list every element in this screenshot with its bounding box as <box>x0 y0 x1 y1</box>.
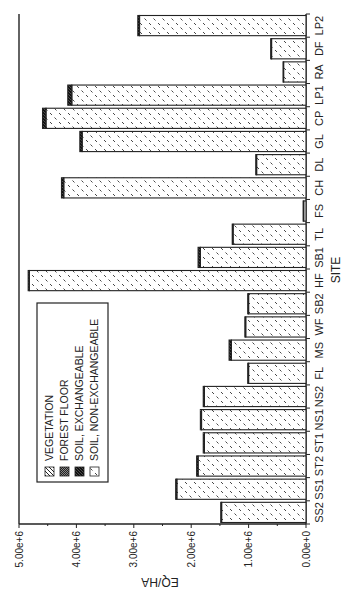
value-axis-ticks: 0.00e+01.00e+62.00e+63.00e+64.00e+65.00e… <box>14 524 312 567</box>
bar-segment-soil-exchangeable <box>271 39 272 59</box>
legend-label-soil-exchangeable: SOIL, EXCHANGEABLE <box>73 345 85 461</box>
bar-ns1 <box>200 410 306 430</box>
bar-segment-soil-non-exchangeable <box>284 62 306 82</box>
bar-segment-soil-non-exchangeable <box>140 16 306 36</box>
value-tick-label: 5.00e+6 <box>14 531 25 568</box>
bar-segment-soil-exchangeable <box>28 271 29 291</box>
legend-label-vegetation: VEGETATION <box>43 395 55 461</box>
bar-sb2 <box>248 294 306 314</box>
bar-segment-soil-exchangeable <box>198 247 200 267</box>
bar-segment-soil-exchangeable <box>232 224 233 244</box>
bar-segment-soil-exchangeable <box>248 294 249 314</box>
bar-ra <box>283 62 306 82</box>
legend-swatch-vegetation <box>45 467 54 476</box>
bar-segment-soil-exchangeable <box>68 85 72 105</box>
value-axis-title: EQ/HA <box>141 575 178 589</box>
bar-ms <box>229 340 306 360</box>
bar-gl <box>80 131 306 151</box>
category-label: SS1 <box>313 479 325 500</box>
bar-segment-soil-exchangeable <box>283 62 284 82</box>
bar-segment-soil-non-exchangeable <box>202 410 306 430</box>
category-label: GL <box>313 134 325 149</box>
value-tick-label: 4.00e+6 <box>71 531 82 568</box>
category-label: WF <box>313 318 325 335</box>
bar-segment-soil-non-exchangeable <box>272 39 306 59</box>
category-label: SS2 <box>313 502 325 523</box>
category-label: CP <box>313 111 325 126</box>
bar-segment-soil-non-exchangeable <box>204 433 306 453</box>
category-label: HF <box>313 273 325 288</box>
bar-ch <box>61 178 306 198</box>
bar-segment-soil-exchangeable <box>221 502 222 522</box>
bar-segment-soil-non-exchangeable <box>233 224 306 244</box>
category-label: MS <box>313 342 325 359</box>
category-label: FS <box>313 204 325 218</box>
bar-segment-soil-non-exchangeable <box>231 340 306 360</box>
legend-label-soil-non-exchangeable: SOIL, NON-EXCHANGEABLE <box>88 319 100 461</box>
chart-stage: 0.00e+01.00e+62.00e+63.00e+64.00e+65.00e… <box>0 0 354 602</box>
bar-lp2 <box>138 16 306 36</box>
bar-segment-soil-exchangeable <box>43 108 46 128</box>
bar-ss2 <box>221 502 306 522</box>
category-label: TL <box>313 228 325 241</box>
legend-item-soil-non-exchangeable: SOIL, NON-EXCHANGEABLE <box>88 319 100 476</box>
bar-st1 <box>203 433 306 453</box>
bar-segment-soil-non-exchangeable <box>246 317 306 337</box>
bar-segment-soil-non-exchangeable <box>82 131 306 151</box>
bar-segment-soil-exchangeable <box>197 456 198 476</box>
bar-segment-soil-non-exchangeable <box>29 271 306 291</box>
category-label: ST1 <box>313 433 325 453</box>
bar-ss1 <box>176 479 306 499</box>
bar-hf <box>28 271 306 291</box>
legend-item-soil-exchangeable: SOIL, EXCHANGEABLE <box>73 345 85 476</box>
bar-segment-soil-exchangeable <box>200 410 201 430</box>
bar-segment-soil-exchangeable <box>176 479 177 499</box>
category-label: SB1 <box>313 247 325 268</box>
category-label: NS2 <box>313 386 325 407</box>
category-axis-title: SITE <box>329 257 343 284</box>
bar-lp1 <box>68 85 306 105</box>
bar-sb1 <box>198 247 306 267</box>
bar-segment-soil-exchangeable <box>203 433 204 453</box>
bar-segment-soil-exchangeable <box>61 178 63 198</box>
bar-segment-soil-exchangeable <box>303 201 304 221</box>
value-tick-label: 0.00e+0 <box>301 531 312 568</box>
value-tick-label: 3.00e+6 <box>128 531 139 568</box>
bar-segment-soil-exchangeable <box>229 340 231 360</box>
bar-cp <box>43 108 306 128</box>
category-label: NS1 <box>313 409 325 430</box>
bar-fl <box>248 363 306 383</box>
bar-chart: 0.00e+01.00e+62.00e+63.00e+64.00e+65.00e… <box>0 0 354 602</box>
legend-swatch-forest-floor <box>60 467 69 476</box>
legend-swatch-soil-exchangeable <box>75 467 84 476</box>
bar-df <box>271 39 306 59</box>
bar-segment-soil-exchangeable <box>245 317 246 337</box>
category-label: DL <box>313 158 325 172</box>
bar-segment-soil-exchangeable <box>203 386 204 406</box>
bar-tl <box>232 224 306 244</box>
bar-segment-soil-non-exchangeable <box>200 247 306 267</box>
bar-segment-soil-exchangeable <box>138 16 140 36</box>
category-axis-labels: SS2SS1ST2ST1NS1NS2FLMSWFSB2HFSB1TLFSCHDL… <box>306 14 325 524</box>
bar-st2 <box>197 456 306 476</box>
bar-ns2 <box>203 386 306 406</box>
category-label: LP2 <box>313 16 325 36</box>
bar-segment-soil-non-exchangeable <box>222 502 306 522</box>
bar-segment-soil-non-exchangeable <box>204 386 306 406</box>
bar-segment-soil-exchangeable <box>256 155 257 175</box>
bar-dl <box>256 155 306 175</box>
bar-segment-soil-non-exchangeable <box>257 155 306 175</box>
bar-wf <box>245 317 306 337</box>
bar-segment-soil-exchangeable <box>248 363 249 383</box>
bar-segment-soil-non-exchangeable <box>46 108 306 128</box>
bar-segment-soil-non-exchangeable <box>177 479 306 499</box>
bar-segment-soil-exchangeable <box>80 131 82 151</box>
category-label: FL <box>313 367 325 380</box>
bar-segment-soil-non-exchangeable <box>249 294 306 314</box>
bar-fs <box>303 201 306 221</box>
bar-segment-soil-non-exchangeable <box>72 85 306 105</box>
category-label: SB2 <box>313 293 325 314</box>
legend-swatch-soil-non-exchangeable <box>90 467 99 476</box>
value-tick-label: 2.00e+6 <box>186 531 197 568</box>
category-label: LP1 <box>313 85 325 105</box>
